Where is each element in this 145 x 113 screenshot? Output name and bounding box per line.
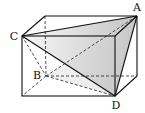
vertex-label-c: C [10,31,18,42]
vertex-label-d: D [112,100,121,111]
vertex-label-a: A [133,2,141,13]
vertex-label-b: B [33,70,41,81]
prism-diagram: A B C D [0,0,145,113]
prism-figure [0,0,145,113]
